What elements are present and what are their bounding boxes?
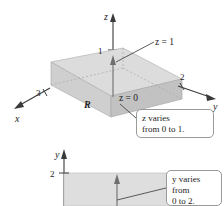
label-z-equals-0: z = 0 (119, 93, 138, 103)
callout-y-varies: y varies from 0 to 2. (166, 170, 222, 206)
y-axis-top (178, 86, 216, 101)
x-axis-label: x (14, 113, 20, 124)
label-z-equals-1: z = 1 (155, 37, 174, 47)
y-axis-label-bottom: y (54, 149, 60, 160)
top-figure-group: z y x 1 2 3 z = 1 z = 0 R (14, 11, 218, 124)
y-tick-label-bottom-2: 2 (50, 169, 55, 179)
figure-root: z y x 1 2 3 z = 1 z = 0 R (0, 0, 224, 206)
z-axis (110, 13, 116, 50)
y-tick-label-2: 2 (180, 72, 185, 82)
x-tick-label-3: 3 (36, 88, 41, 98)
region-label-R: R (83, 99, 91, 110)
z-axis-label: z (103, 11, 108, 22)
z-tick-label-1: 1 (98, 46, 103, 56)
callout-z-varies: z varies from 0 to 1. (136, 109, 214, 138)
bottom-figure-group: y 2 (50, 149, 170, 206)
